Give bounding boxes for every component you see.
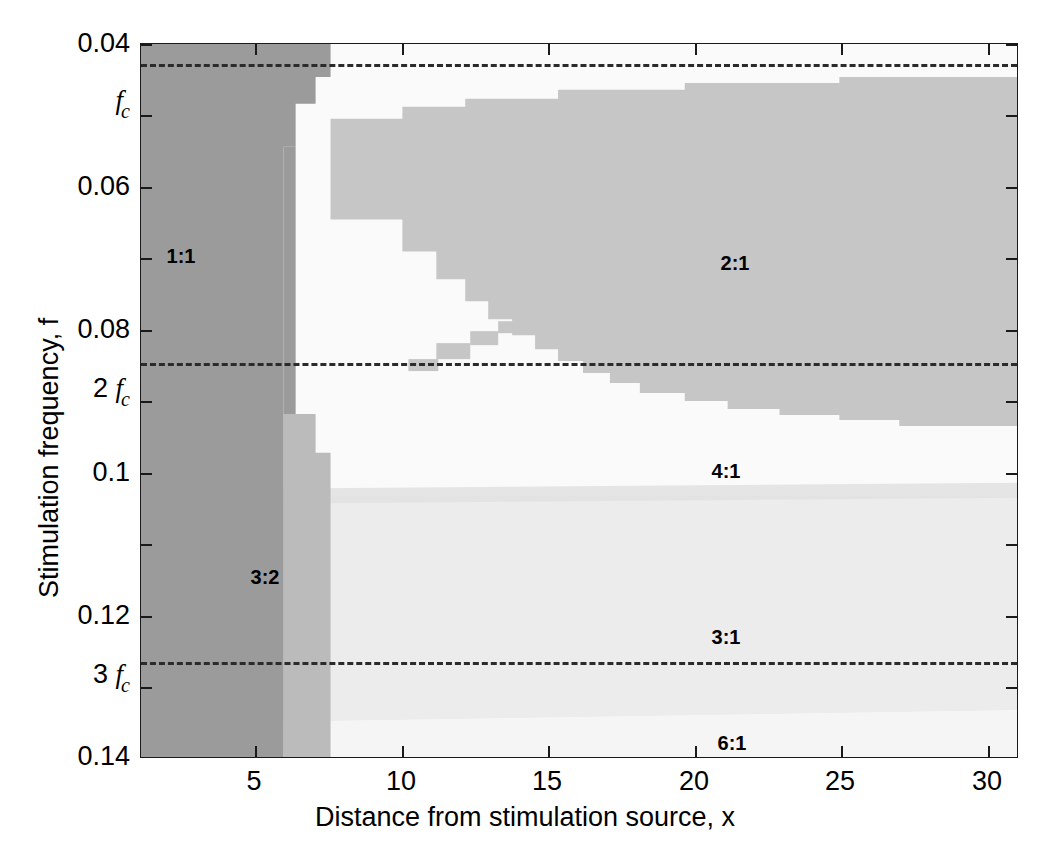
ytick-right-4 bbox=[1006, 330, 1017, 332]
reference-line-fc bbox=[141, 64, 1017, 67]
xtick-10 bbox=[402, 746, 404, 757]
region-label-3-1: 3:1 bbox=[712, 626, 741, 649]
region-label-1-1: 1:1 bbox=[167, 245, 196, 268]
fc-subscript: c bbox=[121, 100, 130, 122]
xtick-top-25 bbox=[841, 44, 843, 55]
scan-grain-overlay bbox=[141, 44, 1017, 757]
ytick-label-0.12: 0.12 bbox=[58, 600, 130, 631]
ytick-minor-3 bbox=[141, 544, 152, 546]
xtick-30 bbox=[988, 746, 990, 757]
reference-line-3fc bbox=[141, 662, 1017, 665]
xtick-label-20: 20 bbox=[679, 766, 709, 797]
ytick-right-1 bbox=[1006, 115, 1017, 117]
regime-heatmap bbox=[141, 44, 1017, 757]
ytick-minor-4 bbox=[141, 687, 152, 689]
ytick-label-0.06: 0.06 bbox=[58, 171, 130, 202]
region-label-6-1: 6:1 bbox=[718, 732, 747, 755]
reference-line-2fc bbox=[141, 363, 1017, 366]
3fc-prefix: 3 bbox=[93, 659, 108, 689]
ytick-minor-1 bbox=[141, 258, 152, 260]
xtick-top-15 bbox=[548, 44, 550, 55]
ytick-major-1 bbox=[141, 187, 152, 189]
x-axis-title: Distance from stimulation source, x bbox=[0, 802, 1050, 833]
ytick-right-0 bbox=[1006, 44, 1017, 46]
ytick-right-7 bbox=[1006, 544, 1017, 546]
plot-area: 1:1 2:1 3:2 4:1 3:1 6:1 bbox=[140, 43, 1018, 758]
ytick-label-0.04: 0.04 bbox=[58, 28, 130, 59]
2fc-prefix: 2 bbox=[93, 373, 108, 403]
xtick-20 bbox=[695, 746, 697, 757]
xtick-15 bbox=[548, 746, 550, 757]
ytick-right-3 bbox=[1006, 258, 1017, 260]
ytick-label-0.08: 0.08 bbox=[58, 314, 130, 345]
y-axis-title: Stimulation frequency, f bbox=[34, 318, 65, 598]
ytick-right-6 bbox=[1006, 473, 1017, 475]
xtick-5 bbox=[255, 746, 257, 757]
xtick-label-25: 25 bbox=[825, 766, 855, 797]
region-label-2-1: 2:1 bbox=[721, 252, 750, 275]
ytick-major-2 bbox=[141, 330, 152, 332]
region-label-3-2: 3:2 bbox=[251, 566, 280, 589]
xtick-label-5: 5 bbox=[246, 766, 261, 797]
ytick-label-0.1: 0.1 bbox=[58, 457, 130, 488]
ytick-right-8 bbox=[1006, 616, 1017, 618]
ytick-minor-0 bbox=[141, 115, 152, 117]
xtick-label-15: 15 bbox=[532, 766, 562, 797]
xtick-top-20 bbox=[695, 44, 697, 55]
ytick-major-4 bbox=[141, 616, 152, 618]
ytick-right-2 bbox=[1006, 187, 1017, 189]
3fc-subscript: c bbox=[121, 674, 130, 696]
2fc-subscript: c bbox=[121, 388, 130, 410]
ytick-major-3 bbox=[141, 473, 152, 475]
ytick-right-5 bbox=[1006, 401, 1017, 403]
xtick-top-5 bbox=[255, 44, 257, 55]
ytick-label-3fc: 3 fc bbox=[42, 659, 130, 697]
xtick-top-30 bbox=[988, 44, 990, 55]
ytick-minor-2 bbox=[141, 401, 152, 403]
ytick-label-0.14: 0.14 bbox=[58, 741, 130, 772]
xtick-top-10 bbox=[402, 44, 404, 55]
ytick-label-fc: fc bbox=[58, 85, 130, 123]
ytick-major-5 bbox=[141, 757, 152, 758]
region-label-4-1: 4:1 bbox=[712, 460, 741, 483]
ytick-major-0 bbox=[141, 44, 152, 46]
ytick-right-9 bbox=[1006, 687, 1017, 689]
xtick-label-10: 10 bbox=[386, 766, 416, 797]
xtick-label-30: 30 bbox=[972, 766, 1002, 797]
figure-root: 1:1 2:1 3:2 4:1 3:1 6:1 0.04 fc 0.06 0.0… bbox=[0, 0, 1050, 843]
xtick-25 bbox=[841, 746, 843, 757]
